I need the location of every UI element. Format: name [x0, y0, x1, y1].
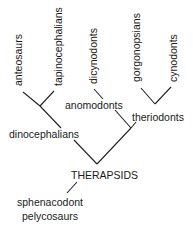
label-anomodonts: anomodonts: [65, 100, 123, 111]
branch-theriodont-stem: [97, 128, 131, 164]
label-dinocephalians: dinocephalians: [9, 129, 79, 140]
branch-cynodonts: [155, 87, 171, 104]
branch-dinocephalians-lower: [74, 140, 97, 164]
branch-tapinocephalians: [40, 91, 54, 106]
label-tapinocephalians: tapinocephalians: [53, 7, 64, 86]
branch-anomodonts: [115, 110, 131, 128]
label-anteosaurs: anteosaurs: [13, 34, 24, 86]
branch-outgroup: [67, 182, 77, 193]
cladogram: anteosaurs tapinocephalians dicynodonts …: [0, 0, 193, 230]
branch-dicynodonts: [94, 89, 103, 99]
branch-dinocephalians-upper: [40, 106, 61, 128]
label-pelycosaurs: pelycosaurs: [22, 211, 78, 222]
label-dicynodonts: dicynodonts: [88, 28, 99, 84]
label-theriodonts: theriodonts: [132, 112, 184, 123]
label-cynodonts: cynodonts: [168, 34, 179, 82]
label-therapsids: THERAPSIDS: [71, 170, 138, 181]
branch-gorgonopsians: [141, 88, 155, 104]
label-gorgonopsians: gorgonopsians: [131, 13, 142, 82]
label-sphenacodont: sphenacodont: [17, 197, 83, 208]
branch-anteosaurs: [23, 92, 40, 106]
